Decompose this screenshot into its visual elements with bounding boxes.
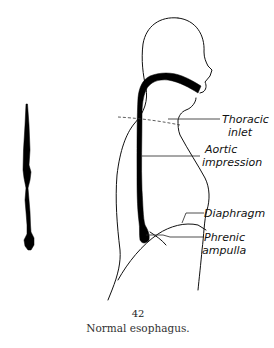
figure-number: 42	[132, 308, 145, 319]
label-diaphragm: Diaphragm	[204, 207, 265, 220]
normal-esophagus-diagram: Thoracic inlet Aortic impression Diaphra…	[0, 0, 274, 348]
label-aortic-impression: Aortic impression	[202, 143, 262, 169]
body-outline-back	[108, 18, 178, 300]
thoracic-inlet-dashed-line	[118, 117, 180, 125]
chin-neck-outline	[178, 98, 209, 290]
label-thoracic-inlet: Thoracic inlet	[222, 113, 272, 139]
diaphragm-dome	[118, 224, 206, 280]
label-phrenic-ampulla: Phrenic ampulla	[202, 231, 248, 257]
figure-caption: Normal esophagus.	[86, 322, 189, 334]
diaphragm-leader	[182, 213, 204, 223]
isolated-esophagus-silhouette	[23, 104, 34, 250]
